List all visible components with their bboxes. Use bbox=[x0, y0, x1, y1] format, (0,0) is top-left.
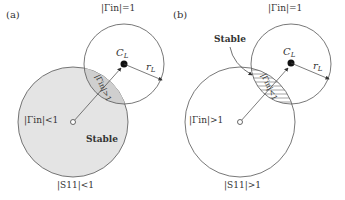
inside-label-a: |Γin|<1 bbox=[24, 115, 58, 126]
panel-b: (b) rL CL |Γin|=1 |Γin|<1 Stable |Γin|>1… bbox=[173, 3, 331, 191]
small-circle-label-a: |Γin|=1 bbox=[101, 3, 135, 14]
panel-b-label: (b) bbox=[173, 9, 187, 20]
radius-arrow-b bbox=[291, 63, 329, 79]
stability-circles-diagram: (a) rL CL |Γin|=1 |Γin|>1 |Γin|<1 Stable… bbox=[0, 0, 345, 200]
stable-label-a: Stable bbox=[86, 134, 118, 144]
rl-label-a: rL bbox=[146, 61, 156, 74]
s11-label-a: |S11|<1 bbox=[57, 180, 94, 191]
stable-pointer-arrow-b bbox=[230, 47, 252, 75]
origin-marker-b bbox=[238, 120, 243, 125]
panel-a: (a) rL CL |Γin|=1 |Γin|>1 |Γin|<1 Stable… bbox=[6, 3, 164, 191]
rl-label-b: rL bbox=[313, 60, 323, 73]
small-circle-label-b: |Γin|=1 bbox=[268, 3, 302, 14]
cl-label-b: CL bbox=[283, 46, 296, 59]
inside-label-b: |Γin|>1 bbox=[189, 115, 223, 126]
s11-label-b: |S11|>1 bbox=[224, 180, 261, 191]
stable-label-b: Stable bbox=[214, 34, 246, 44]
panel-a-label: (a) bbox=[6, 9, 20, 20]
cl-label-a: CL bbox=[116, 47, 129, 60]
origin-marker-a bbox=[71, 120, 76, 125]
radius-arrow-a bbox=[124, 64, 162, 80]
